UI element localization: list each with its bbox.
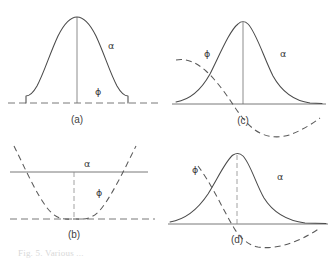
panel-b-label: (b): [68, 229, 80, 240]
panel-d-phi-label: ϕ: [192, 164, 198, 175]
panel-d-label: (d): [231, 234, 243, 245]
panel-b-alpha-label: α: [84, 158, 90, 169]
figure-container: α ϕ (a) ϕ α (c): [0, 0, 331, 260]
panel-c-alpha-curve: [176, 22, 322, 104]
panel-c-label: (c): [237, 115, 249, 126]
panel-a-phi-label: ϕ: [95, 86, 101, 97]
panel-c-phi-label: ϕ: [204, 48, 210, 59]
figure-caption: Fig. 5. Various ...: [18, 248, 84, 258]
panel-c: ϕ α (c): [172, 22, 326, 137]
panel-a-alpha-label: α: [108, 40, 114, 51]
panel-c-alpha-label: α: [280, 48, 286, 59]
panel-d-alpha-label: α: [277, 171, 283, 182]
panel-d-phi-curve: [198, 166, 320, 248]
four-panel-alpha-phi-figure: α ϕ (a) ϕ α (c): [0, 0, 331, 260]
panel-b-phi-curve: [14, 146, 136, 219]
panel-a: α ϕ (a): [8, 17, 158, 125]
panel-a-label: (a): [71, 114, 83, 125]
panel-d: ϕ α (d): [168, 154, 328, 248]
panel-b-phi-label: ϕ: [96, 187, 102, 198]
panel-b: α ϕ (b): [10, 146, 155, 240]
